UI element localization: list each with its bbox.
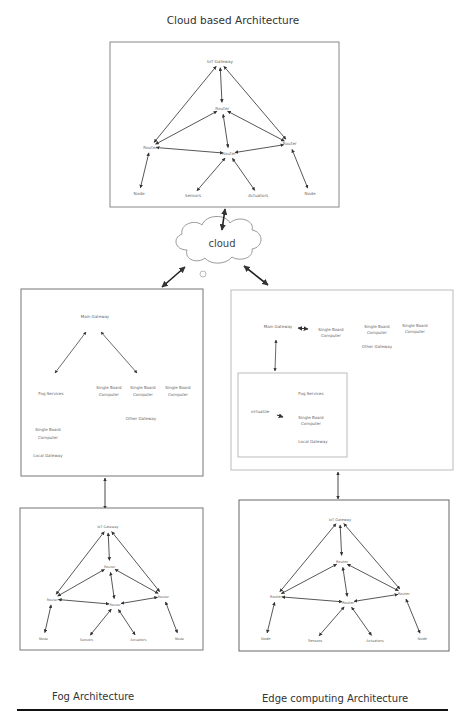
router-top-label: Router [336,560,348,564]
edge-inner-sbc: Single BoardComputer [298,415,324,426]
arrow-cloud-fog [162,267,185,287]
edge-other-gateway: Other Gateway [362,344,393,349]
fog-main-gateway: Main Gateway [81,314,110,319]
edge-sbc-1: Single BoardComputer [318,327,344,338]
router-right-label: Router [283,141,297,146]
edge-virtualize: virtualize [251,409,270,414]
node-right-label: Node [175,637,184,641]
sensors-label: Sensors [308,639,322,643]
router-middle-label: Router [109,603,121,607]
edge-sbc-3: Single BoardComputer [402,323,428,334]
bottom-rule [17,709,448,711]
sensors-label: Sensors [185,193,202,198]
edge-architecture-title: Edge computing Architecture [262,693,408,704]
actuators-label: Actuators [366,639,383,643]
fog-local-gateway: Local Gateway [33,453,63,458]
architecture-diagram: IoT GatewayRouterRouterRouterRouterNodeS… [0,0,466,717]
fog-services-label: Fog Services [38,391,63,396]
router-middle-label: Router [342,601,354,605]
edge-main-gateway: Main Gateway [264,324,293,329]
router-right-label: Router [398,592,410,596]
cloud-label: cloud [208,238,235,249]
iot-gateway-label: IoT Gateway [207,59,234,64]
router-left-label: Router [47,598,59,602]
router-top-label: Router [104,565,116,569]
node-left-label: Node [39,637,48,641]
router-top-label: Router [215,106,229,111]
node-right-label: Node [305,191,316,196]
iot-gateway-label: IoT Gateway [97,525,118,529]
iot-gateway-label: IoT Gateway [329,518,352,522]
actuators-label: Actuators [130,638,146,642]
node-right-label: Node [418,637,428,641]
fog-other-gateway: Other Gateway [126,416,157,421]
sensors-label: Sensors [80,638,94,642]
router-left-label: Router [143,145,157,150]
edge-local-gateway: Local Gateway [298,439,328,444]
node-left-label: Node [134,191,145,196]
fog-layer-panel [21,289,203,476]
arrow-cloud-edge [244,266,268,285]
router-right-label: Router [158,595,170,599]
edge-fog-services: Fog Services [298,391,323,396]
node-left-label: Node [261,637,271,641]
fog-architecture-title: Fog Architecture [52,691,134,702]
router-middle-label: Router [222,151,236,156]
actuators-label: Actuators [248,193,268,198]
router-left-label: Router [270,595,282,599]
edge-sbc-2: Single BoardComputer [364,324,390,335]
edge-inner-panel [238,373,347,457]
